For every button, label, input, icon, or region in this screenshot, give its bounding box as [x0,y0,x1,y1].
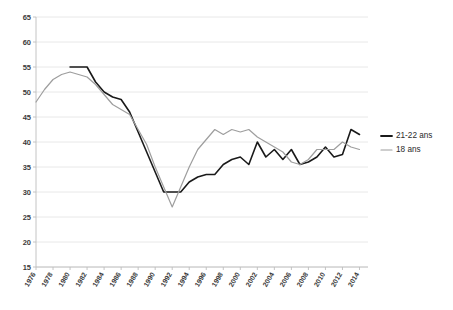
line-chart: 1520253035404550556065 19761978198019821… [0,0,453,310]
ytick-label-60: 60 [23,38,31,47]
xtick-label-2014: 2014 [347,271,361,288]
xtick-label-1988: 1988 [125,271,139,288]
xtick-label-1986: 1986 [108,271,122,288]
xtick-label-1996: 1996 [193,271,207,288]
y-axis: 1520253035404550556065 [23,13,36,272]
xtick-label-1992: 1992 [159,271,173,288]
ytick-label-30: 30 [23,188,31,197]
xtick-label-1982: 1982 [74,271,88,288]
xtick-label-2004: 2004 [261,271,275,288]
x-axis: 1976197819801982198419861988199019921994… [23,267,368,288]
ytick-label-65: 65 [23,13,31,22]
ytick-label-45: 45 [23,113,31,122]
ytick-label-25: 25 [23,213,31,222]
xtick-label-2006: 2006 [278,271,292,288]
legend-label-0: 21-22 ans [396,131,432,140]
chart-container: 1520253035404550556065 19761978198019821… [0,0,453,310]
xtick-label-1978: 1978 [40,271,54,288]
xtick-label-2002: 2002 [244,271,258,288]
ytick-label-20: 20 [23,238,31,247]
xtick-label-1984: 1984 [91,271,105,288]
xtick-label-2010: 2010 [312,271,326,288]
chart-legend: 21-22 ans18 ans [381,131,432,154]
xtick-label-1994: 1994 [176,271,190,288]
legend-label-1: 18 ans [396,145,421,154]
xtick-label-1998: 1998 [210,271,224,288]
ytick-label-50: 50 [23,88,31,97]
gridlines [36,17,368,267]
ytick-label-55: 55 [23,63,31,72]
xtick-label-2012: 2012 [329,271,343,288]
xtick-label-2000: 2000 [227,271,241,288]
series-lines [36,67,359,207]
ytick-label-40: 40 [23,138,31,147]
ytick-label-15: 15 [23,263,31,272]
ytick-label-35: 35 [23,163,31,172]
xtick-label-1976: 1976 [23,271,37,288]
xtick-label-1980: 1980 [57,271,71,288]
xtick-label-2008: 2008 [295,271,309,288]
xtick-label-1990: 1990 [142,271,156,288]
